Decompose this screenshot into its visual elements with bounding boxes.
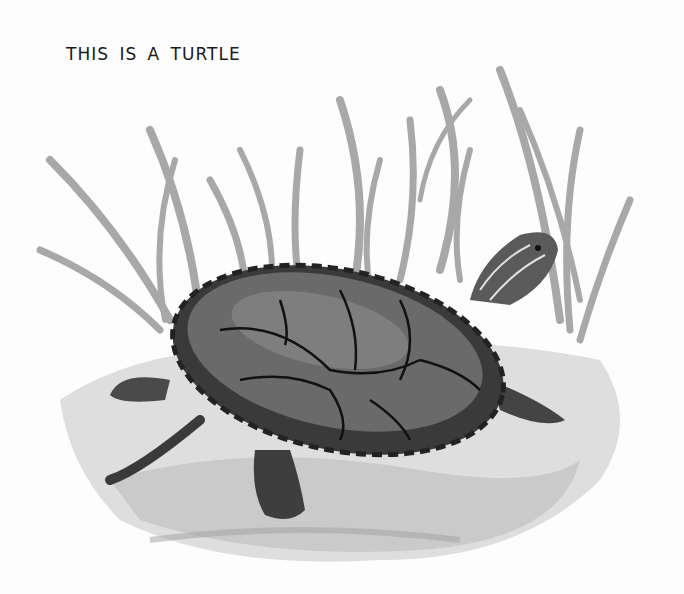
illustration-page: THIS IS A TURTLE: [0, 0, 684, 594]
turtle-illustration: [0, 0, 684, 594]
turtle-head: [470, 232, 558, 305]
